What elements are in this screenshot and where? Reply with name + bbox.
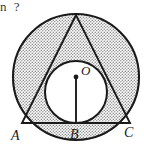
center-point-o [74,75,79,80]
label-c: C [124,125,134,140]
label-b: B [70,127,79,142]
label-a: A [10,128,20,143]
label-o: O [81,63,91,78]
geometry-figure: n ? O A B C [0,0,144,157]
geometry-canvas: O A B C [0,0,144,157]
